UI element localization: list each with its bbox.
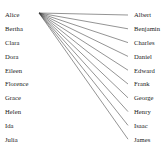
bipartite-graph-figure: AliceBerthaClaraDoraEileenFlorenceGraceH… xyxy=(0,0,167,149)
right-node-isaac[interactable]: Isaac xyxy=(134,122,148,129)
right-node-charles[interactable]: Charles xyxy=(134,39,155,46)
right-node-edward[interactable]: Edward xyxy=(134,67,155,74)
right-node-george[interactable]: George xyxy=(134,94,154,101)
right-node-henry[interactable]: Henry xyxy=(134,108,151,115)
right-node-daniel[interactable]: Daniel xyxy=(134,53,152,60)
right-node-james[interactable]: James xyxy=(134,136,150,143)
right-node-benjamin[interactable]: Benjamin xyxy=(134,25,160,32)
right-node-column: AlbertBenjaminCharlesDanielEdwardFrankGe… xyxy=(0,0,167,149)
right-node-albert[interactable]: Albert xyxy=(134,11,151,18)
right-node-frank[interactable]: Frank xyxy=(134,80,150,87)
